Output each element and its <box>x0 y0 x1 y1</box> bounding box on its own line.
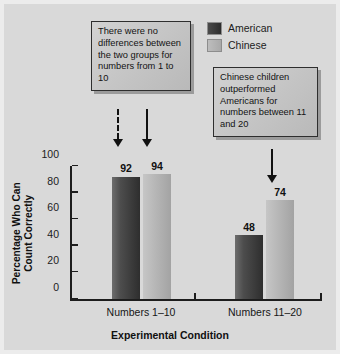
legend-swatch-icon <box>207 22 222 35</box>
legend-item-american: American <box>207 22 272 35</box>
y-tick-label-80: 80 <box>47 175 59 187</box>
y-axis-line <box>70 166 72 301</box>
x-axis-title: Experimental Condition <box>4 329 336 341</box>
x-tick-label-numbers-1-10: Numbers 1–10 <box>107 306 176 318</box>
x-tick-label-numbers-11-20: Numbers 11–20 <box>228 306 302 318</box>
bar-value-chinese-1-10: 94 <box>151 160 163 172</box>
annotation-callout-1: There were no differences between the tw… <box>91 21 191 91</box>
y-tick-label-40: 40 <box>47 228 59 240</box>
y-axis-title-line1: Percentage Who Can <box>11 183 22 285</box>
bar-value-american-11-20: 48 <box>243 221 255 233</box>
y-tick-label-60: 60 <box>47 201 59 213</box>
y-tick-label-100: 100 <box>41 148 59 160</box>
x-axis-line <box>70 299 322 301</box>
bar-chinese-numbers-1-10 <box>143 174 171 299</box>
bar-american-numbers-11-20 <box>235 235 263 299</box>
bar-value-american-1-10: 92 <box>120 162 132 174</box>
legend-item-chinese: Chinese <box>207 39 272 52</box>
bar-chinese-numbers-11-20 <box>266 200 294 299</box>
chart-legend: American Chinese <box>207 22 272 52</box>
legend-label-chinese: Chinese <box>228 40 267 51</box>
y-axis-title-line2: Count Correctly <box>23 195 34 272</box>
bar-american-numbers-1-10 <box>112 177 140 300</box>
plot-area: 0 20 40 60 80 100 <box>70 166 322 301</box>
y-tick-label-0: 0 <box>53 281 59 293</box>
chart-figure: American Chinese There were no differenc… <box>0 0 340 354</box>
legend-swatch-icon <box>207 39 222 52</box>
bar-value-chinese-11-20: 74 <box>274 186 286 198</box>
annotation-callout-2: Chinese children outperformed Americans … <box>213 67 318 137</box>
legend-label-american: American <box>228 23 272 34</box>
y-tick-label-20: 20 <box>47 254 59 266</box>
y-axis-title: Percentage Who Can Count Correctly <box>12 166 34 301</box>
